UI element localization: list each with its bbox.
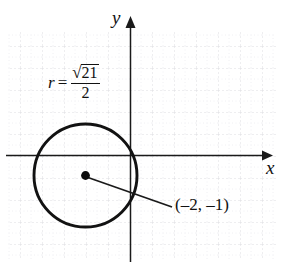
center-point-marker [81, 171, 90, 180]
center-point-label: (–2, –1) [175, 196, 229, 213]
radius-equation: r = √ 21 2 [48, 64, 100, 101]
x-axis-label: x [266, 158, 274, 177]
fraction-numerator: √ 21 [71, 64, 99, 83]
radical-group: √ 21 [72, 64, 98, 82]
coordinate-plane-graphic [0, 0, 283, 264]
equals-sign: = [58, 74, 68, 91]
y-axis-label: y [112, 8, 120, 27]
radicand-value: 21 [81, 64, 99, 82]
radius-fraction: √ 21 2 [71, 64, 99, 101]
fraction-denominator: 2 [81, 84, 89, 101]
radius-variable: r [48, 74, 55, 91]
figure-canvas: y x r = √ 21 2 (–2, –1) [0, 0, 283, 264]
